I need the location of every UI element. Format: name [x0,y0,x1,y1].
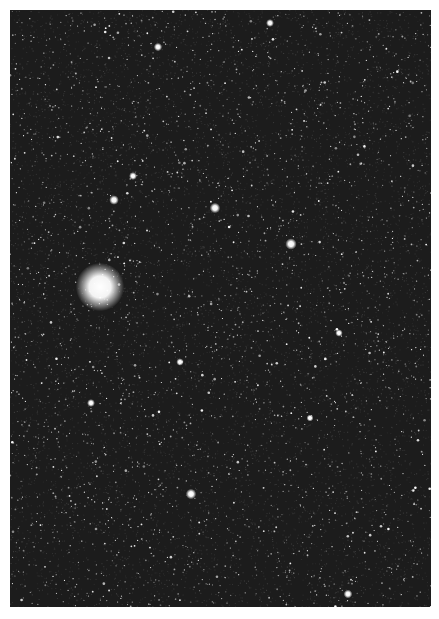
star-field-photo [10,10,431,607]
star-field-canvas [10,10,431,607]
